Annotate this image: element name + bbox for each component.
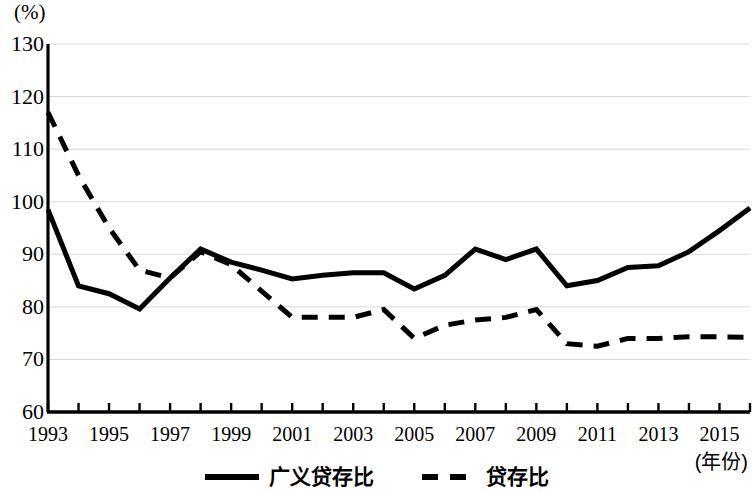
x-axis-tick-label: 2015	[699, 424, 739, 444]
line-chart: (%) 60708090100110120130 199319951997199…	[0, 0, 752, 494]
legend-label-dashed: 贷存比	[486, 466, 549, 487]
x-axis-tick-label: 1997	[150, 424, 190, 444]
x-axis-tick-label: 2007	[455, 424, 495, 444]
legend-item-solid: 广义贷存比	[203, 466, 374, 487]
legend-swatch-dashed-line	[420, 469, 478, 485]
x-axis-tick-label: 2009	[516, 424, 556, 444]
gridlines	[48, 44, 750, 359]
x-axis-tick-label: 2011	[578, 424, 617, 444]
legend-item-dashed: 贷存比	[420, 466, 549, 487]
x-axis-tick-label: 1999	[211, 424, 251, 444]
series-line-guangyi-daicunbi	[48, 208, 750, 309]
x-axis-tick-label: 2003	[333, 424, 373, 444]
x-axis-tick-label: 1995	[89, 424, 129, 444]
x-axis-tick-label: 1993	[28, 424, 68, 444]
x-axis-tick-label: 2001	[272, 424, 312, 444]
legend-swatch-solid-line	[203, 469, 261, 485]
x-axis-tick-label: 2013	[638, 424, 678, 444]
x-axis-tick-label: 2005	[394, 424, 434, 444]
plot-area	[0, 0, 752, 494]
legend-label-solid: 广义贷存比	[269, 466, 374, 487]
chart-legend: 广义贷存比 贷存比	[0, 466, 752, 487]
series-line-daicunbi	[48, 112, 750, 346]
